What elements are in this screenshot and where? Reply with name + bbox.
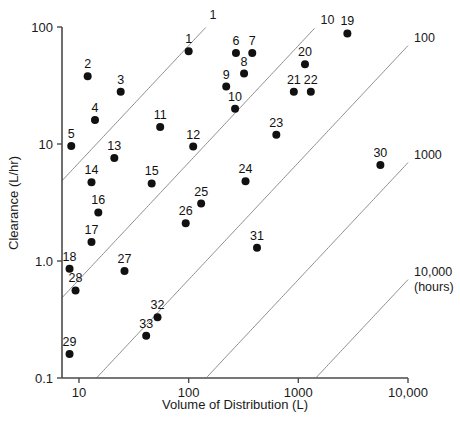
data-point-1 bbox=[185, 47, 193, 55]
data-point-label-19: 19 bbox=[340, 14, 354, 28]
data-point-label-32: 32 bbox=[151, 298, 165, 312]
data-point-13 bbox=[110, 154, 118, 162]
data-point-label-23: 23 bbox=[269, 116, 283, 130]
axes-group bbox=[62, 27, 408, 378]
data-point-15 bbox=[148, 179, 156, 187]
data-point-8 bbox=[240, 70, 248, 78]
data-point-26 bbox=[182, 219, 190, 227]
data-point-4 bbox=[91, 116, 99, 124]
iso-line-label-10000: 10,000 bbox=[414, 265, 452, 279]
data-point-label-15: 15 bbox=[145, 164, 159, 178]
data-point-label-20: 20 bbox=[298, 45, 312, 59]
y-tick-label: 100 bbox=[31, 20, 53, 35]
data-point-29 bbox=[66, 350, 74, 358]
data-point-label-27: 27 bbox=[118, 252, 132, 266]
plot-canvas: 10100100010,000100101.00.1 110100100010,… bbox=[0, 0, 460, 433]
data-point-27 bbox=[120, 267, 128, 275]
data-point-3 bbox=[117, 88, 125, 96]
data-point-label-21: 21 bbox=[287, 73, 301, 87]
data-point-label-25: 25 bbox=[194, 185, 208, 199]
iso-line-labels-group: 110100100010,000(hours) bbox=[210, 8, 454, 294]
data-point-10 bbox=[231, 105, 239, 113]
x-tick-label: 10 bbox=[72, 385, 86, 400]
data-point-label-5: 5 bbox=[68, 127, 75, 141]
data-point-label-30: 30 bbox=[373, 146, 387, 160]
data-point-label-33: 33 bbox=[139, 317, 153, 331]
iso-line-1 bbox=[62, 28, 206, 181]
y-axis-title: Clearance (L/hr) bbox=[6, 156, 21, 250]
data-point-31 bbox=[253, 244, 261, 252]
data-point-label-17: 17 bbox=[85, 223, 99, 237]
x-tick-label: 10,000 bbox=[388, 385, 428, 400]
data-point-24 bbox=[242, 177, 250, 185]
data-point-19 bbox=[343, 29, 351, 37]
data-point-label-31: 31 bbox=[250, 229, 264, 243]
data-point-label-9: 9 bbox=[223, 68, 230, 82]
data-point-label-6: 6 bbox=[232, 34, 239, 48]
half-life-iso-lines bbox=[62, 28, 408, 378]
iso-line-label-100: 100 bbox=[414, 31, 435, 45]
data-point-label-29: 29 bbox=[63, 335, 77, 349]
data-point-7 bbox=[248, 49, 256, 57]
iso-line-unit-label: (hours) bbox=[414, 280, 454, 294]
data-point-label-13: 13 bbox=[107, 139, 121, 153]
data-point-label-28: 28 bbox=[69, 271, 83, 285]
data-point-11 bbox=[156, 123, 164, 131]
y-tick-label: 0.1 bbox=[35, 371, 53, 386]
iso-line-label-1: 1 bbox=[210, 8, 217, 22]
data-point-20 bbox=[301, 60, 309, 68]
data-point-label-3: 3 bbox=[117, 73, 124, 87]
data-point-label-18: 18 bbox=[63, 250, 77, 264]
data-point-14 bbox=[87, 178, 95, 186]
data-point-22 bbox=[307, 88, 315, 96]
data-point-25 bbox=[197, 200, 205, 208]
data-point-label-16: 16 bbox=[91, 193, 105, 207]
data-point-label-2: 2 bbox=[84, 57, 91, 71]
data-point-label-8: 8 bbox=[241, 55, 248, 69]
data-point-label-24: 24 bbox=[239, 162, 253, 176]
data-point-32 bbox=[154, 313, 162, 321]
data-point-33 bbox=[142, 332, 150, 340]
data-point-label-11: 11 bbox=[154, 108, 167, 122]
data-point-6 bbox=[232, 49, 240, 57]
data-point-5 bbox=[67, 142, 75, 150]
data-point-label-1: 1 bbox=[185, 32, 192, 46]
x-axis-title: Volume of Distribution (L) bbox=[162, 397, 308, 412]
data-point-28 bbox=[72, 286, 80, 294]
axis-ticks-group bbox=[57, 27, 408, 383]
data-point-label-12: 12 bbox=[186, 128, 200, 142]
iso-line-label-1000: 1000 bbox=[414, 148, 442, 162]
data-point-label-4: 4 bbox=[92, 101, 99, 115]
data-point-label-14: 14 bbox=[85, 163, 99, 177]
iso-line-10000 bbox=[316, 280, 408, 378]
data-point-label-7: 7 bbox=[249, 34, 256, 48]
y-tick-label: 10 bbox=[39, 137, 53, 152]
data-point-label-22: 22 bbox=[304, 73, 318, 87]
data-point-12 bbox=[189, 143, 197, 151]
data-point-label-10: 10 bbox=[228, 90, 242, 104]
data-point-17 bbox=[87, 238, 95, 246]
data-point-23 bbox=[272, 131, 280, 139]
data-point-2 bbox=[84, 72, 92, 80]
iso-line-1000 bbox=[207, 163, 408, 377]
data-points-group: 1234567891011121314151617181920212223242… bbox=[63, 14, 388, 358]
data-point-16 bbox=[94, 208, 102, 216]
clearance-vs-volume-scatter-figure: 10100100010,000100101.00.1 110100100010,… bbox=[0, 0, 460, 433]
data-point-30 bbox=[376, 161, 384, 169]
data-point-21 bbox=[290, 88, 298, 96]
iso-line-label-10: 10 bbox=[321, 13, 335, 27]
iso-line-10 bbox=[62, 28, 315, 297]
y-tick-label: 1.0 bbox=[35, 254, 53, 269]
data-point-label-26: 26 bbox=[179, 204, 193, 218]
